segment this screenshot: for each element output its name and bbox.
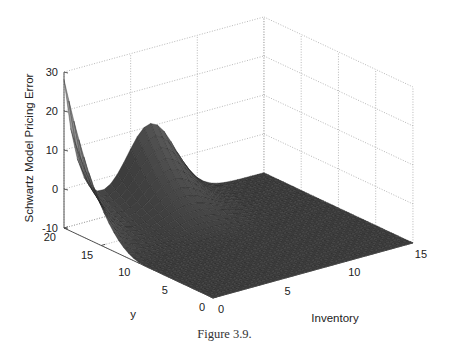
y-tick-label: 0 (199, 301, 205, 313)
y-tick-label: 10 (118, 266, 130, 278)
x-axis-label: Inventory (311, 312, 359, 324)
z-tick-label: 10 (46, 144, 58, 156)
surface-plot: -10010203005101520051015 Schwartz Model … (0, 0, 449, 364)
z-axis-label: Schwartz Model Pricing Error (23, 73, 35, 222)
y-tick-label: 5 (162, 284, 168, 296)
x-tick-label: 0 (218, 303, 224, 315)
z-tick-label: 30 (46, 66, 58, 78)
z-tick-label: 0 (52, 183, 58, 195)
x-tick-label: 10 (348, 266, 360, 278)
y-tick-label: 20 (44, 231, 56, 243)
y-axis-label: y (130, 308, 136, 320)
figure-caption: Figure 3.9. (0, 327, 449, 342)
y-tick-label: 15 (81, 249, 93, 261)
surface-mesh (64, 80, 413, 298)
x-tick-label: 5 (285, 285, 291, 297)
x-tick-label: 15 (415, 248, 427, 260)
z-tick-label: 20 (46, 105, 58, 117)
